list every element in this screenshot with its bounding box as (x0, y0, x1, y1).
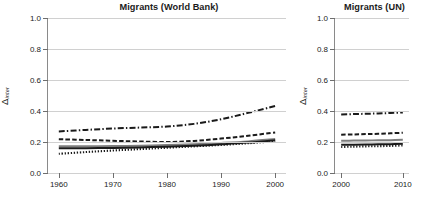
plot-area-un: 0.00.20.40.60.81.020002010 (335, 18, 409, 173)
y-axis-tick-label: 1.0 (317, 14, 328, 23)
y-axis-tick (330, 173, 335, 174)
y-axis-tick (330, 111, 335, 112)
series-line-series-solid-gray (341, 140, 403, 141)
series-line-series-solid-black (341, 144, 403, 145)
y-axis-tick (330, 49, 335, 50)
panel-migrants-world-bank: Migrants (World Bank) Δinter 0.00.20.40.… (0, 0, 300, 203)
y-axis-tick (330, 142, 335, 143)
delta-subscript: inter (302, 87, 308, 98)
panel-title-world-bank: Migrants (World Bank) (0, 2, 300, 12)
gridline (335, 80, 409, 81)
y-axis-label-world-bank: Δinter (0, 87, 10, 105)
gridline (48, 18, 286, 19)
series-layer-un (335, 18, 409, 173)
gridline (335, 49, 409, 50)
y-axis-tick (330, 80, 335, 81)
panel-title-un: Migrants (UN) (300, 2, 423, 12)
gridline (48, 80, 286, 81)
gridline (48, 142, 286, 143)
y-axis-tick-label: 0.4 (30, 107, 41, 116)
gridline (48, 49, 286, 50)
delta-symbol: Δ (297, 99, 308, 105)
gridline (335, 111, 409, 112)
series-svg (48, 18, 286, 173)
y-axis-tick-label: 0.4 (317, 107, 328, 116)
y-axis-tick (43, 173, 48, 174)
gridline (335, 173, 409, 174)
y-axis-tick-label: 0.6 (317, 76, 328, 85)
y-axis-tick-label: 0.6 (30, 76, 41, 85)
y-axis-tick-label: 0.8 (30, 45, 41, 54)
figure-container: Migrants (World Bank) Δinter 0.00.20.40.… (0, 0, 423, 203)
plot-area-world-bank: 0.00.20.40.60.81.019601970198019902000 (48, 18, 286, 173)
x-axis-tick-label: 1970 (104, 180, 122, 189)
y-axis-tick (43, 49, 48, 50)
series-line-series-dashdot (341, 112, 403, 114)
x-axis-tick (403, 173, 404, 178)
delta-subscript: inter (4, 87, 10, 98)
y-axis-tick (43, 111, 48, 112)
x-axis-tick (221, 173, 222, 178)
y-axis-tick (43, 80, 48, 81)
delta-symbol: Δ (0, 99, 10, 105)
y-axis-tick-label: 0.2 (317, 138, 328, 147)
y-axis-tick-label: 0.0 (30, 169, 41, 178)
x-axis-tick (167, 173, 168, 178)
x-axis-tick (275, 173, 276, 178)
x-axis-tick (113, 173, 114, 178)
x-axis-tick-label: 1980 (158, 180, 176, 189)
x-axis-tick-label: 1990 (212, 180, 230, 189)
series-svg (335, 18, 409, 173)
series-line-series-dashdot (59, 106, 275, 131)
y-axis-tick-label: 0.2 (30, 138, 41, 147)
y-axis-tick (330, 18, 335, 19)
gridline (48, 111, 286, 112)
y-axis-tick-label: 0.0 (317, 169, 328, 178)
series-layer-world-bank (48, 18, 286, 173)
x-axis-tick-label: 2000 (266, 180, 284, 189)
y-axis-tick (43, 18, 48, 19)
series-line-series-dashed (59, 132, 275, 142)
x-axis-tick-label: 2010 (394, 180, 412, 189)
panel-migrants-un: Migrants (UN) Δinter 0.00.20.40.60.81.02… (300, 0, 423, 203)
gridline (335, 142, 409, 143)
y-axis-tick-label: 1.0 (30, 14, 41, 23)
gridline (335, 18, 409, 19)
x-axis-tick-label: 1960 (50, 180, 68, 189)
x-axis-tick (341, 173, 342, 178)
x-axis-tick-label: 2000 (332, 180, 350, 189)
y-axis-tick (43, 142, 48, 143)
x-axis-tick (59, 173, 60, 178)
y-axis-label-un: Δinter (297, 87, 308, 105)
series-line-series-dashed (341, 133, 403, 135)
y-axis-tick-label: 0.8 (317, 45, 328, 54)
